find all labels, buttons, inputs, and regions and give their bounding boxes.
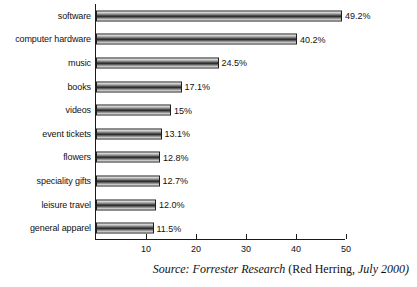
category-label: speciality gifts [37,176,91,186]
x-axis-tick-label: 40 [291,244,301,254]
bar: 13.1% [96,128,162,139]
bar-value-label: 15% [174,105,192,115]
bar-row: books17.1% [96,75,345,99]
bar-row: music24.5% [96,51,345,75]
bar-value-label: 40.2% [300,34,326,44]
bar-row: computer hardware40.2% [96,28,345,52]
category-label: books [67,82,91,92]
bar-row: flowers12.8% [96,146,345,170]
bar: 40.2% [96,34,297,45]
x-axis-tick [346,234,347,239]
category-label: leisure travel [41,200,91,210]
bar-row: event tickets13.1% [96,122,345,146]
bar-chart: software49.2%computer hardware40.2%music… [0,0,417,287]
x-axis-tick [246,234,247,239]
x-axis-tick-label: 10 [141,244,151,254]
source-lead: Source: Forrester Research [153,262,289,276]
bar-value-label: 49.2% [345,11,371,21]
x-axis-tick-label: 30 [241,244,251,254]
x-axis-tick-label: 20 [191,244,201,254]
bar: 49.2% [96,10,342,21]
bar: 24.5% [96,57,219,68]
source-publication: (Red Herring, [288,262,355,276]
bar-row: leisure travel12.0% [96,193,345,217]
bar-value-label: 13.1% [165,129,191,139]
source-note: Source: Forrester Research (Red Herring,… [0,262,409,277]
category-label: computer hardware [15,34,91,44]
plot-area: software49.2%computer hardware40.2%music… [95,4,345,240]
bar-row: videos15% [96,98,345,122]
category-label: music [68,58,91,68]
x-axis-tick [196,234,197,239]
category-label: flowers [63,152,91,162]
source-date: July 2000) [355,262,409,276]
bar-row: general apparel11.5% [96,216,345,240]
bar-value-label: 12.7% [163,176,189,186]
category-label: event tickets [42,129,91,139]
bar: 12.0% [96,199,156,210]
bar-row: software49.2% [96,4,345,28]
bar: 15% [96,105,171,116]
bar: 12.8% [96,152,160,163]
category-label: general apparel [30,223,91,233]
bar-row: speciality gifts12.7% [96,169,345,193]
bar-value-label: 24.5% [222,58,248,68]
bar-value-label: 12.0% [159,200,185,210]
x-axis-tick [296,234,297,239]
bar: 11.5% [96,223,154,234]
bar-value-label: 12.8% [163,152,189,162]
category-label: software [58,11,91,21]
bar-value-label: 17.1% [185,82,211,92]
x-axis-tick [146,234,147,239]
bar: 12.7% [96,175,160,186]
bar: 17.1% [96,81,182,92]
category-label: videos [66,105,91,115]
x-axis-tick-label: 50 [341,244,351,254]
bar-value-label: 11.5% [157,223,182,233]
